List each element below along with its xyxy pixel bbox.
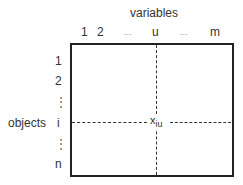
row-i-dashed-line-left bbox=[72, 122, 147, 123]
column-label-m: m bbox=[210, 26, 220, 38]
objects-axis-label: objects bbox=[8, 117, 46, 129]
row-label-1: 1 bbox=[55, 55, 62, 67]
row-label-ellipsis: ⋮ bbox=[55, 138, 67, 150]
data-matrix bbox=[70, 43, 234, 177]
row-label-n: n bbox=[55, 158, 62, 170]
row-label-i: i bbox=[57, 117, 60, 129]
column-label-ellipsis: ... bbox=[124, 26, 132, 38]
row-label-2: 2 bbox=[55, 75, 62, 87]
column-u-dashed-line bbox=[156, 45, 157, 175]
column-label-2: 2 bbox=[97, 26, 104, 38]
column-label-u: u bbox=[152, 26, 159, 38]
column-label-ellipsis: ... bbox=[180, 26, 188, 38]
row-i-dashed-line-right bbox=[170, 122, 231, 123]
row-label-ellipsis: ⋮ bbox=[55, 96, 67, 108]
cell-subscript: iu bbox=[156, 119, 163, 129]
column-label-1: 1 bbox=[81, 26, 88, 38]
variables-axis-label: variables bbox=[130, 7, 178, 19]
cell-x-iu: xiu bbox=[149, 114, 164, 129]
